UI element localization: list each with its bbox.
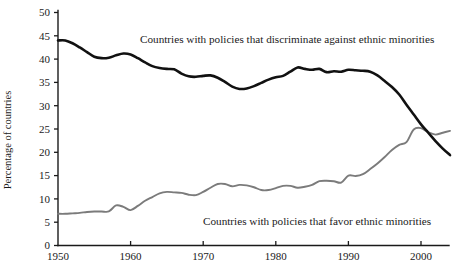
x-tick-label: 1980: [265, 250, 288, 262]
x-tick-label: 1970: [192, 250, 215, 262]
y-tick-label: 30: [39, 100, 51, 112]
x-axis-ticks: 195019601970198019902000: [47, 241, 433, 262]
series-line-favor: [58, 128, 450, 214]
y-tick-label: 45: [39, 30, 51, 42]
x-tick-label: 1990: [337, 250, 360, 262]
annotation-discriminate: Countries with policies that discriminat…: [140, 33, 434, 45]
annotation-favor: Countries with policies that favor ethni…: [203, 215, 431, 227]
x-tick-label: 1950: [47, 250, 70, 262]
series-line-discriminate: [58, 40, 450, 155]
y-tick-label: 40: [39, 53, 51, 65]
line-chart: Percentage of countries 0510152025303540…: [0, 0, 458, 277]
chart-container: Percentage of countries 0510152025303540…: [0, 0, 458, 277]
y-tick-label: 20: [39, 146, 51, 158]
y-tick-label: 25: [39, 123, 51, 135]
x-tick-label: 2000: [410, 250, 433, 262]
y-tick-label: 35: [39, 76, 51, 88]
y-tick-label: 10: [39, 193, 51, 205]
y-tick-label: 15: [39, 169, 51, 181]
y-tick-label: 50: [39, 6, 51, 18]
y-axis-title: Percentage of countries: [2, 91, 13, 190]
y-axis-ticks: 05101520253035404550: [39, 6, 58, 251]
y-tick-label: 5: [45, 216, 51, 228]
x-tick-label: 1960: [120, 250, 143, 262]
